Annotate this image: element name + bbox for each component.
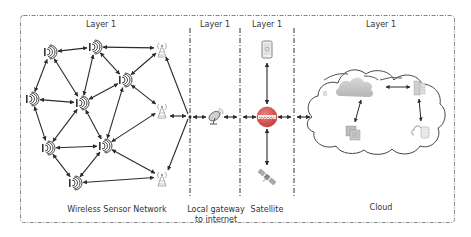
sensor-node-icon (76, 96, 89, 110)
sensor-node-icon (44, 45, 57, 59)
wsn-link (80, 152, 100, 177)
wsn-link (131, 85, 155, 104)
layer-header-gateway: Layer 1 (200, 20, 230, 29)
wsn-link (83, 178, 154, 183)
gateway-junction (189, 116, 192, 119)
cell-tower-icon (158, 43, 167, 57)
cell-tower-icon (158, 172, 167, 186)
caption-wsn: Wireless Sensor Network (67, 205, 167, 214)
gateway-links (166, 57, 310, 170)
caption-gateway-line2: to internet (195, 215, 237, 224)
caption-cloud: Cloud (370, 203, 393, 212)
wsn-link (112, 113, 156, 141)
wsn-link (84, 55, 93, 95)
sensor-node-icon (42, 141, 55, 155)
wsn-link (100, 53, 119, 74)
caption-satellite: Satellite (251, 205, 284, 214)
wsn-link (53, 154, 70, 176)
wsn-links (34, 47, 155, 182)
data-servers-icon (346, 126, 360, 140)
sensor-node-icon (26, 92, 39, 106)
wsn-link (53, 109, 77, 141)
cloud-database-icon (412, 126, 429, 138)
wsn-link (89, 84, 118, 99)
wsn-link (54, 59, 77, 96)
cloud-service-icon (323, 74, 402, 97)
satellite-icon (255, 169, 276, 188)
wsn-link (40, 100, 74, 103)
sensor-node-icon (119, 73, 132, 87)
wsn-link (56, 146, 97, 147)
cell-tower-icon (158, 104, 167, 118)
wsn-link (107, 88, 122, 139)
layer-header-cloud: Layer 1 (366, 20, 396, 29)
internet-globe-icon (257, 107, 277, 127)
outer-border (21, 16, 455, 223)
server-cluster-icon (414, 81, 425, 95)
wsn-link (112, 150, 155, 173)
wsn-link (35, 59, 47, 91)
sensor-node-icon (89, 40, 102, 54)
sensor-node-icon (99, 139, 112, 153)
smartphone-icon (262, 41, 272, 58)
sensor-node-icon (69, 176, 82, 190)
wsn-link (86, 110, 101, 139)
wsn-link (131, 53, 156, 75)
iot-architecture-diagram: Layer 1 Layer 1 Layer 1 Layer 1 Wireless… (0, 0, 471, 237)
wsn-link (34, 107, 45, 141)
cloud-boundary (307, 70, 445, 155)
caption-gateway-line1: Local gateway (187, 205, 245, 214)
layer-header-wsn: Layer 1 (86, 20, 116, 29)
wsn-link (103, 47, 154, 48)
wsn-link (58, 48, 87, 51)
layer-header-satellite: Layer 1 (252, 20, 282, 29)
satellite-dish-icon (207, 108, 223, 124)
